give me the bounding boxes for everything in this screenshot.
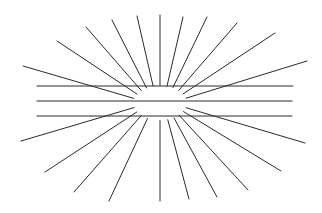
ray-line-6: [167, 17, 183, 86]
illusion-figure: [0, 0, 322, 213]
ray-line-15: [168, 120, 189, 199]
radiating-rays: [21, 15, 307, 201]
ray-line-13: [179, 115, 248, 190]
ray-line-2: [86, 27, 141, 91]
horizontal-lines: [37, 86, 293, 116]
ray-line-19: [45, 112, 137, 172]
ray-line-0: [23, 66, 134, 98]
ray-line-4: [137, 16, 153, 86]
ray-line-3: [112, 20, 147, 88]
ray-line-11: [186, 108, 305, 143]
ray-line-14: [174, 118, 217, 197]
ray-line-20: [21, 108, 134, 141]
sunburst-lines-drawing: [0, 0, 322, 213]
